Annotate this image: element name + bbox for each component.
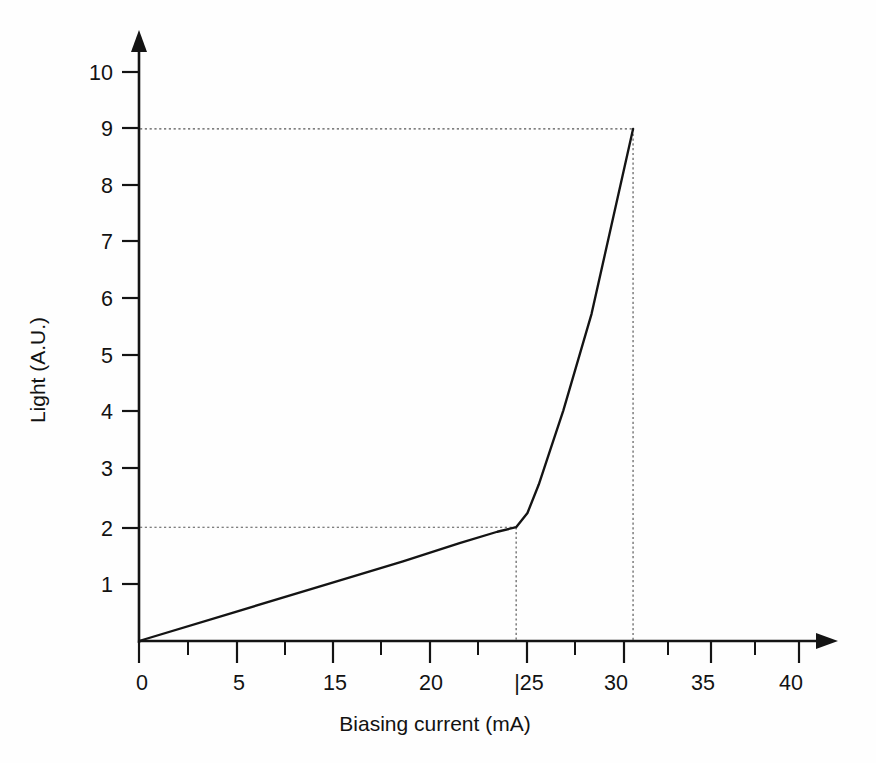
- y-tick-label-7: 7: [101, 230, 113, 254]
- x-tick-label-35: 35: [691, 671, 715, 695]
- y-tick-label-5: 5: [101, 344, 113, 368]
- y-tick-label-6: 6: [101, 287, 113, 311]
- y-tick-labels: 10 9 8 7 6 5 4 3 2 1: [89, 61, 113, 597]
- y-tick-label-1: 1: [101, 573, 113, 597]
- x-minor-tick-marks: [188, 641, 755, 655]
- x-axis-group: [139, 633, 838, 649]
- y-axis-arrow-icon: [131, 30, 147, 52]
- y-axis-title: Light (A.U.): [26, 317, 49, 423]
- y-tick-label-3: 3: [101, 457, 113, 481]
- x-axis-arrow-icon: [816, 633, 838, 649]
- y-tick-label-2: 2: [101, 517, 113, 541]
- line-chart-canvas: 10 9 8 7 6 5 4 3 2 1 Light (A.U.): [0, 0, 876, 763]
- y-axis-group: [131, 30, 147, 643]
- x-tick-label-30: 30: [604, 671, 628, 695]
- x-tick-label-20: 20: [419, 671, 443, 695]
- chart-figure: 10 9 8 7 6 5 4 3 2 1 Light (A.U.): [0, 0, 876, 763]
- x-axis-title: Biasing current (mA): [339, 712, 530, 735]
- y-tick-marks: [122, 72, 139, 584]
- guide-lines-group: [140, 129, 633, 641]
- x-tick-label-5: 5: [233, 671, 245, 695]
- x-tick-label-15: 15: [323, 671, 347, 695]
- x-tick-label-0: 0: [136, 671, 148, 695]
- x-tick-labels: 0 5 15 20 |25 30 35 40: [136, 671, 803, 695]
- y-tick-label-10: 10: [89, 61, 113, 85]
- x-tick-label-25: |25: [514, 671, 544, 695]
- y-tick-label-8: 8: [101, 174, 113, 198]
- x-major-tick-marks: [139, 641, 799, 663]
- x-tick-label-40: 40: [779, 671, 803, 695]
- li-characteristic-curve: [139, 129, 633, 641]
- y-tick-label-9: 9: [101, 117, 113, 141]
- y-tick-label-4: 4: [101, 400, 113, 424]
